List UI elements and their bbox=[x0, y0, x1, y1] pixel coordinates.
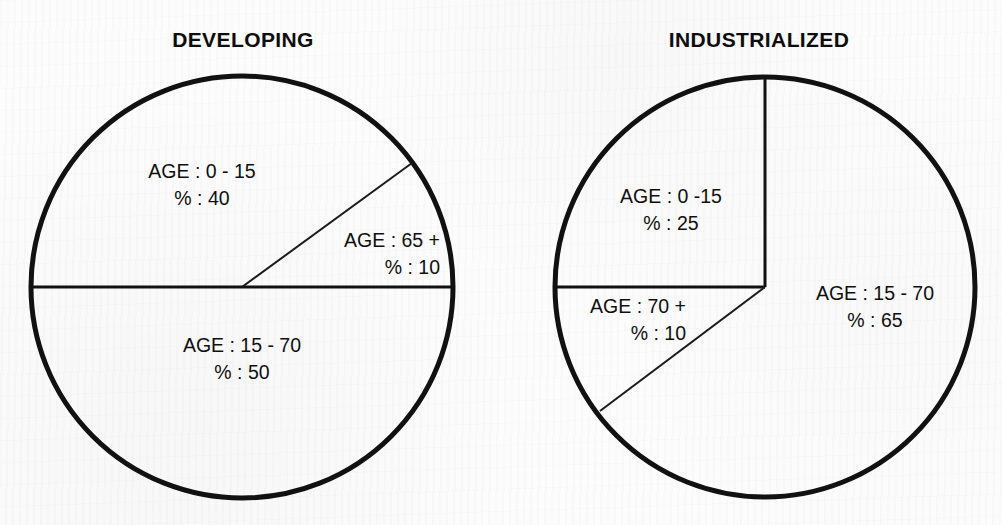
slice-age-text: AGE : 15 - 70 bbox=[780, 280, 970, 307]
pie-chart-industrialized bbox=[0, 0, 1002, 525]
slice-label-industrialized-70-plus: AGE : 70 + % : 10 bbox=[520, 293, 686, 347]
slice-label-industrialized-15-70: AGE : 15 - 70 % : 65 bbox=[780, 280, 970, 334]
slice-pct-text: % : 25 bbox=[586, 210, 756, 237]
figure-canvas: DEVELOPING AGE : 0 - 15 % : 40 AGE : 65 … bbox=[0, 0, 1002, 525]
slice-age-text: AGE : 0 -15 bbox=[586, 183, 756, 210]
slice-pct-text: % : 10 bbox=[520, 320, 686, 347]
slice-label-industrialized-0-15: AGE : 0 -15 % : 25 bbox=[586, 183, 756, 237]
slice-age-text: AGE : 70 + bbox=[520, 293, 686, 320]
slice-pct-text: % : 65 bbox=[780, 307, 970, 334]
